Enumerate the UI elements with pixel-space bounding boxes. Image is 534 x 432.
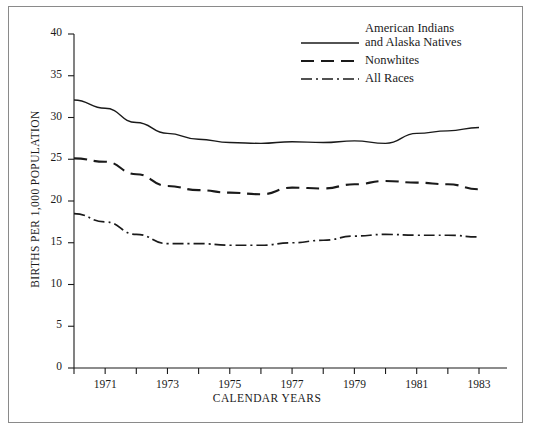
series-line-all-races	[74, 214, 479, 246]
legend-label-nonwhites: Nonwhites	[361, 53, 419, 67]
legend-swatch-solid-icon	[299, 35, 361, 51]
x-tick-label: 1981	[395, 378, 439, 390]
figure-canvas: 0510152025303540 19711973197519771979198…	[0, 0, 534, 432]
x-tick-label: 1973	[145, 378, 189, 390]
legend-label-american-indians: American Indians and Alaska Natives	[361, 21, 462, 49]
legend-item-nonwhites: Nonwhites	[299, 53, 529, 69]
y-tick-label: 5	[36, 318, 62, 330]
x-tick-label: 1979	[332, 378, 376, 390]
legend-label-line1: American Indians	[365, 21, 454, 35]
x-tick-label: 1983	[457, 378, 501, 390]
series-line-nonwhites	[74, 158, 479, 194]
x-axis-ticks	[74, 368, 479, 374]
y-axis-title: BIRTHS PER 1,000 POPULATION	[29, 99, 41, 299]
y-axis-ticks	[68, 34, 74, 368]
legend-label-line2: and Alaska Natives	[365, 35, 462, 49]
x-tick-label: 1975	[208, 378, 252, 390]
x-axis-title: CALENDAR YEARS	[0, 392, 534, 404]
y-tick-label: 35	[36, 68, 62, 80]
x-tick-label: 1977	[270, 378, 314, 390]
legend-swatch-dashed-icon	[299, 53, 361, 69]
figure-border: 0510152025303540 19711973197519771979198…	[8, 6, 523, 423]
legend-item-all-races: All Races	[299, 71, 529, 87]
chart-legend: American Indians and Alaska Natives Nonw…	[299, 21, 529, 89]
legend-swatch-dash-dot-icon	[299, 71, 361, 87]
y-tick-label: 40	[36, 26, 62, 38]
y-tick-label: 0	[36, 360, 62, 372]
series-line-american-indians-and-alaska-natives	[74, 100, 479, 143]
data-series-group	[74, 100, 479, 245]
legend-item-american-indians-and-alaska-natives: American Indians and Alaska Natives	[299, 21, 529, 51]
x-tick-label: 1971	[83, 378, 127, 390]
legend-label-all-races: All Races	[361, 71, 414, 85]
